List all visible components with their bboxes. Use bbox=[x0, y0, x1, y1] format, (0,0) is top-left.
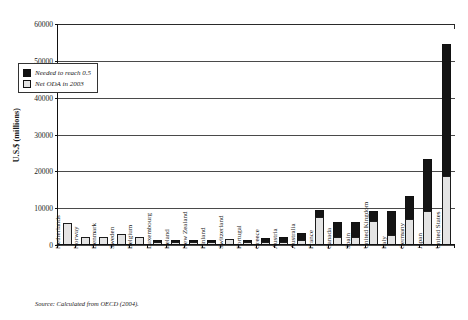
x-label-slot: Canada bbox=[328, 249, 346, 297]
bar-italy bbox=[387, 211, 396, 244]
bar-slot bbox=[58, 24, 76, 244]
bar-australia bbox=[297, 233, 306, 244]
source-note: Source: Calculated from OECD (2004). bbox=[35, 300, 139, 307]
bar-segment-net-oda bbox=[405, 219, 414, 244]
x-label-slot: United Kingdom bbox=[365, 249, 383, 297]
bar-segment-net-oda bbox=[63, 223, 72, 244]
bar-segment-net-oda bbox=[153, 242, 162, 244]
x-label-slot: Netherlands bbox=[57, 249, 75, 297]
legend-swatch-light bbox=[23, 80, 31, 88]
y-tick-label-30000: 30000 bbox=[34, 130, 53, 139]
bar-slot bbox=[365, 24, 383, 244]
y-tick-label-10000: 10000 bbox=[34, 204, 53, 213]
bar-segment-needed bbox=[351, 222, 360, 237]
bar-norway bbox=[81, 237, 90, 244]
bar-segment-net-oda bbox=[261, 242, 270, 244]
bar-belgium bbox=[135, 237, 144, 244]
x-label-slot: United States bbox=[437, 249, 455, 297]
bar-netherlands bbox=[63, 223, 72, 244]
bar-segment-needed bbox=[333, 222, 342, 237]
bar-segment-net-oda bbox=[315, 217, 324, 244]
bar-japan bbox=[423, 159, 432, 244]
bar-segment-net-oda bbox=[135, 237, 144, 244]
x-label-slot: Germany bbox=[401, 249, 419, 297]
bar-spain bbox=[351, 222, 360, 244]
legend-swatch-dark bbox=[23, 69, 31, 77]
bar-france bbox=[315, 210, 324, 244]
bar-segment-needed bbox=[387, 211, 396, 235]
x-label-slot: Norway bbox=[75, 249, 93, 297]
bar-segment-needed bbox=[442, 44, 451, 175]
bar-new-zealand bbox=[189, 240, 198, 244]
bar-segment-net-oda bbox=[297, 240, 306, 244]
x-axis-labels: NetherlandsNorwayDenmarkSwedenBelgiumLux… bbox=[57, 249, 455, 297]
x-label-slot: Belgium bbox=[129, 249, 147, 297]
x-label-slot: Finland bbox=[202, 249, 220, 297]
bar-segment-needed bbox=[315, 210, 324, 218]
bar-segment-needed bbox=[423, 159, 432, 211]
y-tick-label-40000: 40000 bbox=[34, 93, 53, 102]
bar-segment-net-oda bbox=[333, 237, 342, 244]
bar-slot bbox=[347, 24, 365, 244]
legend-label-needed: Needed to reach 0.5 bbox=[35, 69, 91, 77]
bar-segment-needed bbox=[297, 233, 306, 240]
bar-slot bbox=[329, 24, 347, 244]
chart-figure: U.S.$ (millions) 01000020000300004000050… bbox=[0, 0, 468, 320]
bar-slot bbox=[184, 24, 202, 244]
bar-segment-net-oda bbox=[243, 242, 252, 244]
x-label-slot: Switzerland bbox=[220, 249, 238, 297]
bar-segment-net-oda bbox=[442, 176, 451, 245]
legend-item-net-oda: Net ODA in 2003 bbox=[23, 78, 91, 89]
bar-segment-net-oda bbox=[171, 242, 180, 244]
bar-austria bbox=[279, 237, 288, 244]
x-label-slot: Portugal bbox=[238, 249, 256, 297]
bar-segment-net-oda bbox=[387, 235, 396, 244]
bar-germany bbox=[405, 196, 414, 244]
x-tick-mark bbox=[454, 245, 455, 248]
bar-finland bbox=[207, 240, 216, 244]
bar-switzerland bbox=[225, 239, 234, 244]
bar-slot bbox=[275, 24, 293, 244]
bar-segment-needed bbox=[369, 211, 378, 221]
bar-segment-net-oda bbox=[117, 234, 126, 244]
bar-slot bbox=[293, 24, 311, 244]
bar-slot bbox=[383, 24, 401, 244]
bar-slot bbox=[148, 24, 166, 244]
x-label-slot: Ireland bbox=[166, 249, 184, 297]
bar-segment-net-oda bbox=[99, 237, 108, 244]
legend-label-net-oda: Net ODA in 2003 bbox=[35, 80, 84, 88]
bar-ireland bbox=[171, 240, 180, 244]
bar-sweden bbox=[117, 234, 126, 244]
x-label-slot: New Zealand bbox=[184, 249, 202, 297]
bar-slot bbox=[401, 24, 419, 244]
bar-denmark bbox=[99, 237, 108, 244]
bar-segment-net-oda bbox=[225, 239, 234, 244]
bar-slot bbox=[202, 24, 220, 244]
x-label-slot: Austria bbox=[274, 249, 292, 297]
bar-slot bbox=[220, 24, 238, 244]
bar-slot bbox=[166, 24, 184, 244]
plot-area: 0100002000030000400005000060000 bbox=[57, 24, 455, 245]
legend-item-needed: Needed to reach 0.5 bbox=[23, 67, 91, 78]
bar-slot bbox=[94, 24, 112, 244]
bar-luxembourg bbox=[153, 240, 162, 244]
bar-segment-net-oda bbox=[369, 221, 378, 244]
bar-slot bbox=[238, 24, 256, 244]
bar-segment-net-oda bbox=[351, 237, 360, 244]
bar-slot bbox=[130, 24, 148, 244]
bar-portugal bbox=[243, 240, 252, 244]
x-label-slot: Australia bbox=[292, 249, 310, 297]
x-label-slot: Italy bbox=[383, 249, 401, 297]
bar-united-kingdom bbox=[369, 211, 378, 244]
bar-segment-needed bbox=[405, 196, 414, 219]
bar-slot bbox=[437, 24, 455, 244]
y-tick-label-60000: 60000 bbox=[34, 20, 53, 29]
bar-slot bbox=[112, 24, 130, 244]
bar-group bbox=[58, 24, 455, 244]
bar-greece bbox=[261, 238, 270, 244]
bar-segment-net-oda bbox=[189, 242, 198, 244]
x-label-slot: Japan bbox=[419, 249, 437, 297]
bar-canada bbox=[333, 222, 342, 244]
y-axis-title: U.S.$ (millions) bbox=[12, 108, 26, 162]
bar-segment-net-oda bbox=[423, 211, 432, 244]
